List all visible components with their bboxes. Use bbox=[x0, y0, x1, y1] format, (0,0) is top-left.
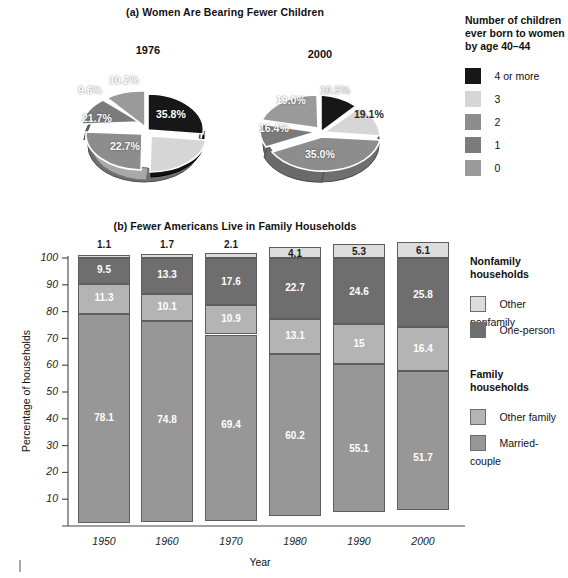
xtick-1990: 1990 bbox=[333, 535, 385, 547]
bar-1950-val-married-couple: 78.1 bbox=[78, 412, 130, 423]
bar-1980-val-other-family: 13.1 bbox=[269, 330, 321, 341]
x-axis-label: Year bbox=[200, 556, 320, 568]
bar-1990-val-other-nonfamily: 5.3 bbox=[333, 246, 385, 257]
ytick-10: 10 bbox=[24, 492, 58, 504]
bar-1950-val-other-family: 11.3 bbox=[78, 292, 130, 303]
bar-group-1960[interactable]: 1.7 13.3 10.1 74.8 bbox=[141, 0, 193, 578]
bar-legend-item-married-couple[interactable]: Married-couple bbox=[470, 433, 568, 459]
bar-1990-val-married-couple: 55.1 bbox=[333, 443, 385, 454]
bar-group-1950[interactable]: 1.1 9.5 11.3 78.1 bbox=[78, 0, 130, 578]
bar-1990-seg-married-couple bbox=[333, 364, 385, 512]
legend-swatch-other-family bbox=[470, 409, 486, 425]
y-axis-ticks bbox=[62, 258, 68, 499]
bar-1970-val-married-couple: 69.4 bbox=[205, 419, 257, 430]
xtick-1960: 1960 bbox=[141, 535, 193, 547]
bar-1990-val-one-person: 24.6 bbox=[333, 286, 385, 297]
legend-swatch-one-person bbox=[470, 322, 486, 338]
bar-group-2000[interactable]: 6.1 25.8 16.4 51.7 bbox=[397, 0, 449, 578]
ytick-90: 90 bbox=[24, 278, 58, 290]
xtick-1980: 1980 bbox=[269, 535, 321, 547]
legend-label-one-person: One-person bbox=[499, 324, 554, 336]
bar-1980-val-one-person: 22.7 bbox=[269, 282, 321, 293]
bar-2000-seg-married-couple bbox=[397, 371, 449, 510]
bar-2000-val-other-nonfamily: 6.1 bbox=[397, 245, 449, 256]
bar-1960-val-one-person: 13.3 bbox=[141, 269, 193, 280]
legend-swatch-other-nonfamily bbox=[470, 296, 486, 312]
bar-1990-val-other-family: 15 bbox=[333, 338, 385, 349]
bar-legend-nonfamily-line1: Nonfamily bbox=[470, 255, 568, 268]
bar-legend-item-one-person[interactable]: One-person bbox=[470, 320, 568, 346]
xtick-1950: 1950 bbox=[78, 535, 130, 547]
bar-1970-val-one-person: 17.6 bbox=[205, 276, 257, 287]
bar-2000-val-one-person: 25.8 bbox=[397, 289, 449, 300]
ytick-100: 100 bbox=[24, 251, 58, 263]
bar-1970-top-value: 2.1 bbox=[205, 239, 257, 250]
bar-legend-nonfamily-line2: households bbox=[470, 268, 568, 281]
bar-legend: Nonfamily households Other nonfamily One… bbox=[470, 255, 568, 459]
legend-swatch-married-couple bbox=[470, 435, 486, 451]
bar-group-1990[interactable]: 5.3 24.6 15 55.1 bbox=[333, 0, 385, 578]
bar-1950-top-value: 1.1 bbox=[78, 239, 130, 250]
bar-legend-family-heading: Family households bbox=[470, 368, 568, 394]
legend-label-other-family: Other family bbox=[499, 411, 556, 423]
bar-1960-top-value: 1.7 bbox=[141, 239, 193, 250]
bar-group-1970[interactable]: 2.1 17.6 10.9 69.4 bbox=[205, 0, 257, 578]
bar-2000-val-other-family: 16.4 bbox=[397, 343, 449, 354]
bar-legend-item-other-nonfamily[interactable]: Other nonfamily bbox=[470, 294, 568, 320]
bar-1970-val-other-family: 10.9 bbox=[205, 313, 257, 324]
y-axis-label: Percentage of households bbox=[20, 291, 32, 491]
bar-group-1980[interactable]: 4.1 22.7 13.1 60.2 bbox=[269, 0, 321, 578]
bar-legend-family-line1: Family bbox=[470, 368, 568, 381]
bar-2000-val-married-couple: 51.7 bbox=[397, 452, 449, 463]
bar-1960-val-married-couple: 74.8 bbox=[141, 414, 193, 425]
bar-1980-val-married-couple: 60.2 bbox=[269, 430, 321, 441]
bar-legend-item-other-family[interactable]: Other family bbox=[470, 407, 568, 433]
bar-legend-nonfamily-heading: Nonfamily households bbox=[470, 255, 568, 281]
bar-legend-family-line2: households bbox=[470, 381, 568, 394]
bar-1950-val-one-person: 9.5 bbox=[78, 264, 130, 275]
xtick-2000: 2000 bbox=[397, 535, 449, 547]
bar-1960-val-other-family: 10.1 bbox=[141, 301, 193, 312]
xtick-1970: 1970 bbox=[205, 535, 257, 547]
